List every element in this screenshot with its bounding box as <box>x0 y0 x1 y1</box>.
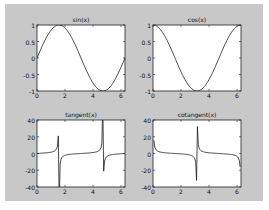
y-tick-label: 20 <box>143 133 153 140</box>
y-tick-label: -40 <box>25 184 37 191</box>
x-tick-label: 4 <box>207 92 211 99</box>
figure-window: sin(x) 024610.50-0.5-1 cos(x) 024610.50-… <box>5 4 263 201</box>
y-tick-label: -0.5 <box>139 71 153 78</box>
y-tick-label: 1 <box>31 22 37 29</box>
y-tick-label: -20 <box>25 167 37 174</box>
y-tick-label: 0.5 <box>25 38 37 45</box>
subplot-sin: sin(x) 024610.50-0.5-1 <box>37 25 125 91</box>
x-tick-label: 2 <box>179 188 183 195</box>
y-tick-label: 0 <box>147 150 153 157</box>
x-tick-label: 6 <box>119 92 123 99</box>
x-tick-label: 4 <box>91 188 95 195</box>
y-tick-label: 0 <box>31 55 37 62</box>
plot-area <box>37 120 125 187</box>
plot-area <box>37 25 125 91</box>
subplot-cotangent: cotangent(x) 024640200-20-40 <box>153 120 241 187</box>
subplot-title: tangent(x) <box>65 111 97 118</box>
y-tick-label: 0 <box>31 150 37 157</box>
x-tick-label: 2 <box>179 92 183 99</box>
x-tick-label: 6 <box>235 92 239 99</box>
subplot-title: cos(x) <box>188 16 206 23</box>
plot-area <box>153 25 241 91</box>
x-tick-label: 4 <box>207 188 211 195</box>
y-tick-label: -40 <box>141 184 153 191</box>
y-tick-label: 40 <box>143 117 153 124</box>
x-tick-label: 6 <box>119 188 123 195</box>
y-tick-label: -0.5 <box>23 71 37 78</box>
x-tick-label: 2 <box>63 188 67 195</box>
x-tick-label: 4 <box>91 92 95 99</box>
subplot-title: sin(x) <box>73 16 90 23</box>
y-tick-label: -1 <box>29 88 37 95</box>
x-tick-label: 6 <box>235 188 239 195</box>
y-tick-label: 20 <box>27 133 37 140</box>
x-tick-label: 2 <box>63 92 67 99</box>
y-tick-label: 1 <box>147 22 153 29</box>
subplot-cos: cos(x) 024610.50-0.5-1 <box>153 25 241 91</box>
y-tick-label: -20 <box>141 167 153 174</box>
y-tick-label: 40 <box>27 117 37 124</box>
y-tick-label: 0.5 <box>141 38 153 45</box>
plot-area <box>153 120 241 187</box>
subplot-title: cotangent(x) <box>178 111 217 118</box>
y-tick-label: 0 <box>147 55 153 62</box>
y-tick-label: -1 <box>145 88 153 95</box>
subplot-tangent: tangent(x) 024640200-20-40 <box>37 120 125 187</box>
